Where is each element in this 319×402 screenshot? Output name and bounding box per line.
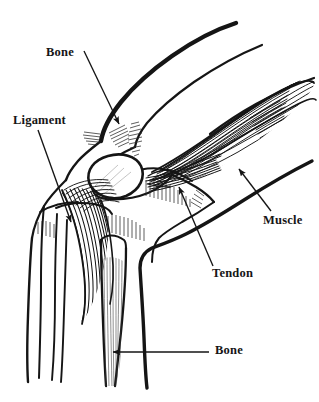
label-ligament: Ligament	[13, 114, 66, 127]
femur-outline	[101, 23, 314, 147]
label-tendon: Tendon	[212, 267, 253, 280]
patellar-ligament	[62, 179, 119, 324]
tibia-shaft	[101, 236, 126, 389]
leader-tendon	[179, 187, 213, 266]
label-bone-tibia: Bone	[215, 344, 243, 357]
anatomy-illustration	[0, 0, 319, 402]
patella	[88, 154, 142, 198]
anatomy-diagram: Bone Ligament Muscle Tendon Bone	[0, 0, 319, 402]
label-bone-femur: Bone	[46, 46, 74, 59]
leader-bone-top	[84, 51, 119, 124]
label-muscle: Muscle	[263, 214, 302, 227]
leader-muscle	[239, 169, 271, 211]
